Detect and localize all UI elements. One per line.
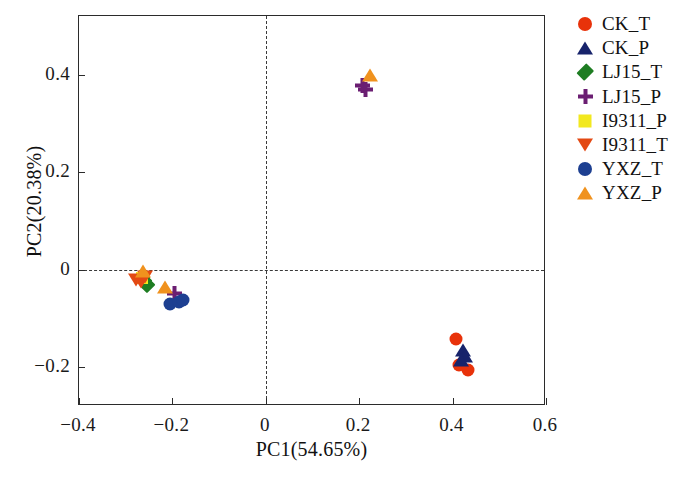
circle-icon	[572, 12, 598, 36]
legend-item-yxz-t[interactable]: YXZ_T	[572, 157, 685, 181]
y-axis-title: PC2(20.38%)	[23, 67, 46, 337]
diamond-icon	[572, 60, 598, 84]
x-tick	[266, 398, 267, 405]
x-tick-label: 0.2	[346, 414, 371, 436]
data-point-yxz-p	[157, 281, 173, 294]
legend-item-label: LJ15_P	[602, 86, 661, 108]
x-tick	[359, 398, 360, 405]
legend-item-yxz-p[interactable]: YXZ_P	[572, 181, 685, 205]
legend: CK_TCK_PLJ15_TLJ15_PI9311_PI9311_TYXZ_TY…	[572, 12, 685, 206]
legend-item-label: CK_P	[602, 37, 649, 59]
x-tick	[453, 398, 454, 405]
legend-item-label: I9311_P	[602, 110, 667, 132]
plot-area	[78, 15, 545, 405]
data-point-yxz-p	[135, 265, 151, 278]
data-point-yxz-t	[176, 293, 189, 306]
x-tick	[546, 398, 547, 405]
legend-item-i9311-p[interactable]: I9311_P	[572, 109, 685, 133]
data-point-ck-p	[453, 354, 469, 367]
plus-icon	[572, 85, 598, 109]
data-point-lj15-p	[358, 82, 373, 97]
caption-fragment	[30, 468, 650, 482]
pca-scatter-figure: −0.4−0.200.20.40.6 −0.200.20.4 PC1(54.65…	[0, 0, 685, 486]
triangle-down-icon	[572, 133, 598, 157]
x-tick-label: −0.2	[154, 414, 190, 436]
legend-item-label: CK_T	[602, 13, 650, 35]
triangle-up-icon	[572, 36, 598, 60]
legend-item-i9311-t[interactable]: I9311_T	[572, 133, 685, 157]
legend-item-ck-t[interactable]: CK_T	[572, 12, 685, 36]
legend-item-label: YXZ_P	[602, 182, 662, 204]
x-tick-label: 0	[260, 414, 270, 436]
y-tick	[78, 172, 85, 173]
x-tick	[79, 398, 80, 405]
legend-item-ck-p[interactable]: CK_P	[572, 36, 685, 60]
x-tick-label: 0.4	[439, 414, 464, 436]
legend-item-lj15-p[interactable]: LJ15_P	[572, 85, 685, 109]
data-point-yxz-p	[362, 68, 378, 81]
x-axis-title: PC1(54.65%)	[78, 438, 545, 461]
circle-icon	[572, 157, 598, 181]
legend-item-label: I9311_T	[602, 134, 668, 156]
x-tick-label: −0.4	[60, 414, 96, 436]
legend-item-lj15-t[interactable]: LJ15_T	[572, 60, 685, 84]
square-icon	[572, 109, 598, 133]
legend-item-label: LJ15_T	[602, 61, 662, 83]
legend-item-label: YXZ_T	[602, 158, 663, 180]
y-tick-label: −0.2	[8, 355, 70, 377]
vertical-reference-line	[266, 16, 267, 404]
y-tick	[78, 270, 85, 271]
y-tick	[78, 367, 85, 368]
triangle-up-icon	[572, 181, 598, 205]
x-tick-label: 0.6	[533, 414, 558, 436]
x-tick	[172, 398, 173, 405]
y-tick	[78, 75, 85, 76]
